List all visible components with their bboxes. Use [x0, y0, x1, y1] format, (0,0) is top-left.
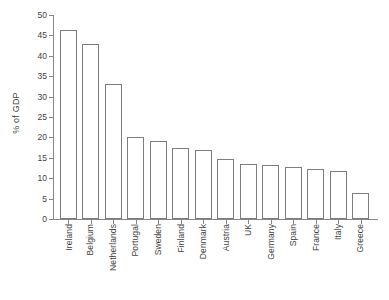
y-axis-title-text: % of GDP	[11, 92, 21, 134]
x-tick-label-text: Italy	[334, 224, 343, 240]
y-tick-label: 0	[42, 215, 47, 224]
y-tick-mark	[49, 178, 53, 179]
x-tick-label-text: Finland	[177, 224, 186, 253]
x-tick-label-text: Denmark	[199, 224, 208, 259]
x-axis-line	[53, 219, 378, 220]
y-tick-mark	[49, 117, 53, 118]
x-tick-label-text: Germany	[267, 224, 276, 260]
x-tick-label-text: Belgium	[87, 224, 96, 255]
bar-germany	[262, 165, 279, 219]
bar-france	[307, 169, 324, 219]
x-axis-labels: IrelandBelgiumNetherlandsPortugalSwedenF…	[53, 224, 378, 296]
bar-netherlands	[105, 84, 122, 219]
bar-belgium	[82, 44, 99, 219]
y-axis-line	[53, 15, 54, 220]
y-tick-label: 40	[38, 52, 47, 61]
bar-italy	[330, 171, 347, 219]
y-tick-mark	[49, 35, 53, 36]
y-tick-label: 30	[38, 92, 47, 101]
x-tick-label-text: UK	[244, 224, 253, 236]
y-tick-label: 10	[38, 174, 47, 183]
bar-uk	[240, 164, 257, 219]
y-tick-label: 15	[38, 154, 47, 163]
x-tick-label-text: Ireland	[64, 224, 73, 251]
y-tick-label: 20	[38, 133, 47, 142]
bar-sweden	[150, 141, 167, 219]
bar-chart-figure: % of GDP 05101520253035404550 IrelandBel…	[0, 0, 389, 300]
y-tick-mark	[49, 15, 53, 16]
y-tick-label: 25	[38, 113, 47, 122]
y-tick-label: 5	[42, 194, 47, 203]
bar-portugal	[127, 137, 144, 219]
bar-denmark	[195, 150, 212, 219]
bar-spain	[285, 167, 302, 219]
plot-area: 05101520253035404550	[53, 15, 378, 219]
y-tick-label: 50	[38, 11, 47, 20]
y-tick-mark	[49, 199, 53, 200]
bar-austria	[217, 159, 234, 219]
x-tick-label-text: Netherlands	[109, 224, 118, 271]
y-tick-label: 35	[38, 72, 47, 81]
bar-ireland	[60, 30, 77, 219]
y-tick-label: 45	[38, 31, 47, 40]
y-tick-mark	[49, 137, 53, 138]
y-tick-mark	[49, 56, 53, 57]
x-tick-label-text: France	[312, 224, 321, 251]
x-tick-label-text: Portugal	[132, 224, 141, 256]
y-tick-mark	[49, 219, 53, 220]
y-tick-mark	[49, 158, 53, 159]
y-tick-mark	[49, 76, 53, 77]
x-tick-label-text: Sweden	[154, 224, 163, 255]
x-tick-label-text: Spain	[289, 224, 298, 246]
y-axis-title: % of GDP	[6, 0, 26, 225]
bar-greece	[352, 193, 369, 219]
bar-finland	[172, 148, 189, 219]
x-tick-label-text: Austria	[222, 224, 231, 251]
x-tick-label-text: Greece	[357, 224, 366, 252]
y-tick-mark	[49, 97, 53, 98]
